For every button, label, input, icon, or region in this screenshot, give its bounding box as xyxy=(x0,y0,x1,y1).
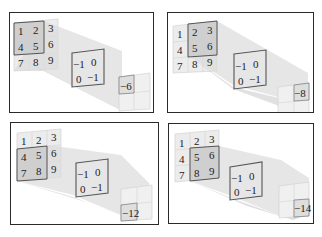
kernel-cell: 0 xyxy=(234,186,240,198)
cell-2: 2 xyxy=(192,26,198,38)
cell-8: 8 xyxy=(33,56,39,68)
kernel-cell: 0 xyxy=(91,56,97,68)
kernel-cell: −1 xyxy=(73,58,85,70)
convolution-diagram-3: 1 2 3 4 5 6 7 8 9 −1 0 0 −1 −12 xyxy=(11,123,159,225)
cell-5: 5 xyxy=(194,151,200,163)
cell-6: 6 xyxy=(209,149,215,161)
output-value: −8 xyxy=(294,87,306,99)
cell-5: 5 xyxy=(192,42,198,54)
kernel-cell: 0 xyxy=(249,170,255,182)
kernel-cell: 0 xyxy=(76,73,82,85)
convolution-diagram-1: 1 2 3 4 5 6 7 8 9 −1 0 0 −1 −6 xyxy=(10,13,154,113)
cell-4: 4 xyxy=(21,151,27,163)
cell-6: 6 xyxy=(51,147,57,159)
kernel-cell: −1 xyxy=(235,60,247,72)
panel-3: 1 2 3 4 5 6 7 8 9 −1 0 0 −1 −12 xyxy=(10,122,159,225)
cell-2: 2 xyxy=(194,135,200,147)
cell-1: 1 xyxy=(21,135,27,147)
kernel-cell: −1 xyxy=(87,71,99,83)
cell-9: 9 xyxy=(51,163,57,175)
cell-4: 4 xyxy=(179,153,185,165)
cell-6: 6 xyxy=(207,40,213,52)
output-value: −14 xyxy=(294,202,312,214)
cell-2: 2 xyxy=(33,24,39,36)
cell-3: 3 xyxy=(207,24,213,36)
cell-8: 8 xyxy=(194,167,200,179)
output-value: −6 xyxy=(120,80,132,92)
cell-9: 9 xyxy=(209,165,215,177)
cell-9: 9 xyxy=(48,54,54,66)
panel-4: 1 2 3 4 5 6 7 8 9 −1 0 0 −1 −14 xyxy=(168,123,314,224)
cell-8: 8 xyxy=(36,165,42,177)
cell-5: 5 xyxy=(36,149,42,161)
cell-7: 7 xyxy=(177,60,183,72)
cell-7: 7 xyxy=(21,167,27,179)
cell-7: 7 xyxy=(179,169,185,181)
cell-4: 4 xyxy=(18,41,24,53)
cell-6: 6 xyxy=(48,38,54,50)
cell-3: 3 xyxy=(51,131,57,143)
kernel-cell: −1 xyxy=(231,172,243,184)
kernel-cell: 0 xyxy=(238,75,244,87)
cell-2: 2 xyxy=(36,134,42,146)
panel-2: 1 2 3 4 5 6 7 8 9 −1 0 0 −1 −8 xyxy=(167,12,314,113)
kernel-cell: −1 xyxy=(249,73,261,85)
cell-1: 1 xyxy=(18,25,24,37)
cell-1: 1 xyxy=(179,137,185,149)
cell-4: 4 xyxy=(177,44,183,56)
kernel-cell: 0 xyxy=(80,183,86,195)
kernel-cell: −1 xyxy=(245,184,257,196)
cell-7: 7 xyxy=(18,57,24,69)
kernel-cell: −1 xyxy=(77,168,89,180)
cell-3: 3 xyxy=(48,22,54,34)
cell-5: 5 xyxy=(33,40,39,52)
convolution-diagram-2: 1 2 3 4 5 6 7 8 9 −1 0 0 −1 −8 xyxy=(168,13,314,113)
output-grid xyxy=(119,73,150,111)
cell-3: 3 xyxy=(209,133,215,145)
cell-9: 9 xyxy=(207,56,213,68)
cell-1: 1 xyxy=(177,28,183,40)
cell-8: 8 xyxy=(192,58,198,70)
output-value: −12 xyxy=(122,207,139,219)
kernel-cell: −1 xyxy=(91,181,103,193)
panel-1: 1 2 3 4 5 6 7 8 9 −1 0 0 −1 −6 xyxy=(9,12,154,113)
convolution-diagram-4: 1 2 3 4 5 6 7 8 9 −1 0 0 −1 −14 xyxy=(169,124,314,224)
kernel-cell: 0 xyxy=(253,58,259,70)
kernel-cell: 0 xyxy=(95,166,101,178)
